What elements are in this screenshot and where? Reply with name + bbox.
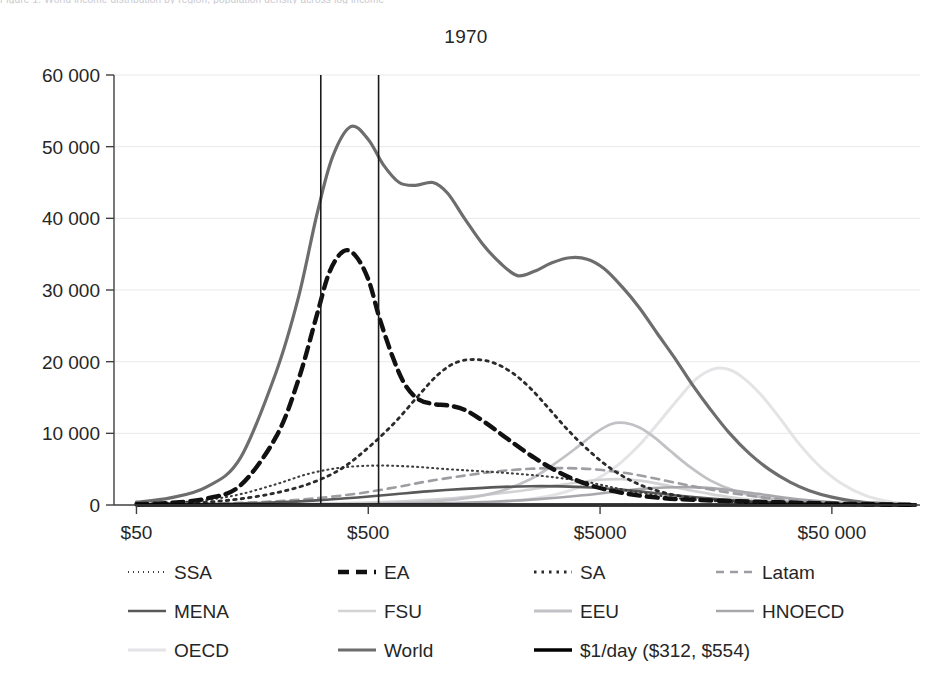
series-curve-world: [136, 126, 915, 505]
x-axis-ticks: $50$500$5000$50 000: [121, 505, 867, 543]
legend-label: HNOECD: [762, 601, 844, 622]
legend-label: MENA: [174, 601, 229, 622]
chart-legend: SSAEASALatamMENAFSUEEUHNOECDOECDWorld$1/…: [128, 562, 844, 661]
legend-item-ea[interactable]: EA: [338, 562, 410, 583]
series-curve-oecd: [136, 368, 915, 505]
x-tick-label: $500: [347, 522, 389, 543]
legend-item-hnoecd[interactable]: HNOECD: [716, 601, 844, 622]
legend-item-sa[interactable]: SA: [534, 562, 606, 583]
gridlines: [114, 75, 920, 433]
legend-label: OECD: [174, 640, 229, 661]
y-tick-label: 20 000: [42, 352, 100, 373]
legend-label: World: [384, 640, 433, 661]
legend-label: EA: [384, 562, 410, 583]
x-tick-label: $50: [121, 522, 153, 543]
y-tick-label: 30 000: [42, 280, 100, 301]
y-tick-label: 0: [89, 495, 100, 516]
legend-label: FSU: [384, 601, 422, 622]
income-distribution-chart: 010 00020 00030 00040 00050 00060 000 $5…: [0, 0, 932, 687]
legend-item-eeu[interactable]: EEU: [534, 601, 619, 622]
chart-root: Figure 1. World income distribution by r…: [0, 0, 932, 687]
legend-label: Latam: [762, 562, 815, 583]
legend-item-mena[interactable]: MENA: [128, 601, 229, 622]
legend-item-fsu[interactable]: FSU: [338, 601, 422, 622]
y-tick-label: 10 000: [42, 423, 100, 444]
series-curve-ea: [136, 250, 911, 505]
legend-label: $1/day ($312, $554): [580, 640, 750, 661]
legend-item-oecd[interactable]: OECD: [128, 640, 229, 661]
y-tick-label: 60 000: [42, 65, 100, 86]
clipped-header-text: Figure 1. World income distribution by r…: [0, 0, 932, 4]
y-tick-label: 40 000: [42, 208, 100, 229]
y-axis-ticks: 010 00020 00030 00040 00050 00060 000: [42, 65, 114, 516]
y-tick-label: 50 000: [42, 137, 100, 158]
x-tick-label: $5000: [574, 522, 627, 543]
legend-item-ssa[interactable]: SSA: [128, 562, 212, 583]
legend-item-latam[interactable]: Latam: [716, 562, 815, 583]
series-curves: [136, 126, 915, 505]
chart-title: 1970: [0, 26, 932, 48]
x-tick-label: $50 000: [798, 522, 867, 543]
legend-item-world[interactable]: World: [338, 640, 433, 661]
legend-item-1-day[interactable]: $1/day ($312, $554): [534, 640, 750, 661]
legend-label: SSA: [174, 562, 212, 583]
legend-label: EEU: [580, 601, 619, 622]
legend-label: SA: [580, 562, 606, 583]
